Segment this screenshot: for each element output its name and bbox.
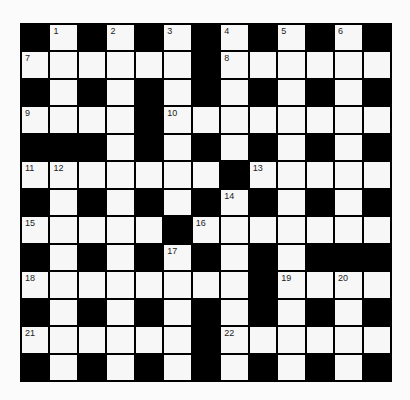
crossword-cell[interactable]: [79, 217, 105, 242]
crossword-cell[interactable]: [50, 217, 76, 242]
crossword-cell[interactable]: [335, 135, 361, 160]
crossword-cell[interactable]: [107, 52, 133, 77]
crossword-cell[interactable]: [50, 107, 76, 132]
crossword-cell[interactable]: [221, 245, 247, 270]
crossword-cell[interactable]: 3: [164, 25, 190, 50]
crossword-cell[interactable]: 16: [193, 217, 219, 242]
crossword-cell[interactable]: [221, 80, 247, 105]
crossword-cell[interactable]: [278, 162, 304, 187]
crossword-cell[interactable]: [50, 52, 76, 77]
crossword-cell[interactable]: 2: [107, 25, 133, 50]
crossword-cell[interactable]: [79, 272, 105, 297]
crossword-cell[interactable]: [164, 162, 190, 187]
crossword-cell[interactable]: 1: [50, 25, 76, 50]
crossword-cell[interactable]: 6: [335, 25, 361, 50]
crossword-cell[interactable]: 4: [221, 25, 247, 50]
crossword-cell[interactable]: [107, 272, 133, 297]
crossword-cell[interactable]: [307, 52, 333, 77]
crossword-cell[interactable]: [278, 52, 304, 77]
crossword-cell[interactable]: 15: [22, 217, 48, 242]
crossword-cell[interactable]: [221, 300, 247, 325]
crossword-cell[interactable]: [278, 80, 304, 105]
crossword-cell[interactable]: [278, 135, 304, 160]
crossword-cell[interactable]: [335, 107, 361, 132]
crossword-cell[interactable]: [278, 355, 304, 380]
crossword-cell[interactable]: 9: [22, 107, 48, 132]
crossword-cell[interactable]: [107, 190, 133, 215]
crossword-cell[interactable]: [164, 272, 190, 297]
crossword-cell[interactable]: 18: [22, 272, 48, 297]
crossword-cell[interactable]: [278, 107, 304, 132]
crossword-cell[interactable]: [136, 52, 162, 77]
crossword-cell[interactable]: [50, 80, 76, 105]
crossword-cell[interactable]: [164, 135, 190, 160]
crossword-cell[interactable]: [250, 52, 276, 77]
crossword-cell[interactable]: [278, 217, 304, 242]
crossword-cell[interactable]: [364, 52, 390, 77]
crossword-cell[interactable]: [335, 327, 361, 352]
crossword-cell[interactable]: [335, 80, 361, 105]
crossword-cell[interactable]: [193, 162, 219, 187]
crossword-cell[interactable]: [335, 217, 361, 242]
crossword-cell[interactable]: [136, 327, 162, 352]
crossword-cell[interactable]: [107, 245, 133, 270]
crossword-cell[interactable]: [307, 162, 333, 187]
crossword-cell[interactable]: 8: [221, 52, 247, 77]
crossword-cell[interactable]: [307, 217, 333, 242]
crossword-cell[interactable]: 14: [221, 190, 247, 215]
crossword-cell[interactable]: [79, 327, 105, 352]
crossword-cell[interactable]: [193, 107, 219, 132]
crossword-cell[interactable]: [221, 272, 247, 297]
crossword-cell[interactable]: [364, 162, 390, 187]
crossword-cell[interactable]: [278, 190, 304, 215]
crossword-cell[interactable]: [335, 300, 361, 325]
crossword-cell[interactable]: [250, 107, 276, 132]
crossword-cell[interactable]: [278, 245, 304, 270]
crossword-cell[interactable]: [164, 190, 190, 215]
crossword-cell[interactable]: [164, 80, 190, 105]
crossword-cell[interactable]: [221, 217, 247, 242]
crossword-cell[interactable]: 7: [22, 52, 48, 77]
crossword-cell[interactable]: [250, 217, 276, 242]
crossword-cell[interactable]: [50, 272, 76, 297]
crossword-cell[interactable]: 19: [278, 272, 304, 297]
crossword-cell[interactable]: [364, 217, 390, 242]
crossword-cell[interactable]: [278, 300, 304, 325]
crossword-cell[interactable]: [307, 107, 333, 132]
crossword-cell[interactable]: 10: [164, 107, 190, 132]
crossword-cell[interactable]: [335, 52, 361, 77]
crossword-cell[interactable]: [79, 162, 105, 187]
crossword-cell[interactable]: [193, 272, 219, 297]
crossword-cell[interactable]: 12: [50, 162, 76, 187]
crossword-cell[interactable]: [278, 327, 304, 352]
crossword-cell[interactable]: [107, 162, 133, 187]
crossword-cell[interactable]: [307, 327, 333, 352]
crossword-cell[interactable]: [164, 355, 190, 380]
crossword-cell[interactable]: [107, 80, 133, 105]
crossword-cell[interactable]: [79, 107, 105, 132]
crossword-cell[interactable]: [107, 107, 133, 132]
crossword-cell[interactable]: 13: [250, 162, 276, 187]
crossword-cell[interactable]: [164, 327, 190, 352]
crossword-cell[interactable]: [364, 107, 390, 132]
crossword-cell[interactable]: [136, 162, 162, 187]
crossword-cell[interactable]: [164, 52, 190, 77]
crossword-cell[interactable]: [364, 272, 390, 297]
crossword-cell[interactable]: [136, 272, 162, 297]
crossword-cell[interactable]: [164, 300, 190, 325]
crossword-cell[interactable]: 11: [22, 162, 48, 187]
crossword-cell[interactable]: [221, 107, 247, 132]
crossword-cell[interactable]: 22: [221, 327, 247, 352]
crossword-cell[interactable]: 21: [22, 327, 48, 352]
crossword-cell[interactable]: [50, 190, 76, 215]
crossword-cell[interactable]: [107, 135, 133, 160]
crossword-cell[interactable]: [221, 135, 247, 160]
crossword-cell[interactable]: 20: [335, 272, 361, 297]
crossword-cell[interactable]: [364, 327, 390, 352]
crossword-cell[interactable]: [50, 245, 76, 270]
crossword-cell[interactable]: [107, 217, 133, 242]
crossword-cell[interactable]: [50, 327, 76, 352]
crossword-cell[interactable]: [335, 355, 361, 380]
crossword-cell[interactable]: 5: [278, 25, 304, 50]
crossword-cell[interactable]: [221, 355, 247, 380]
